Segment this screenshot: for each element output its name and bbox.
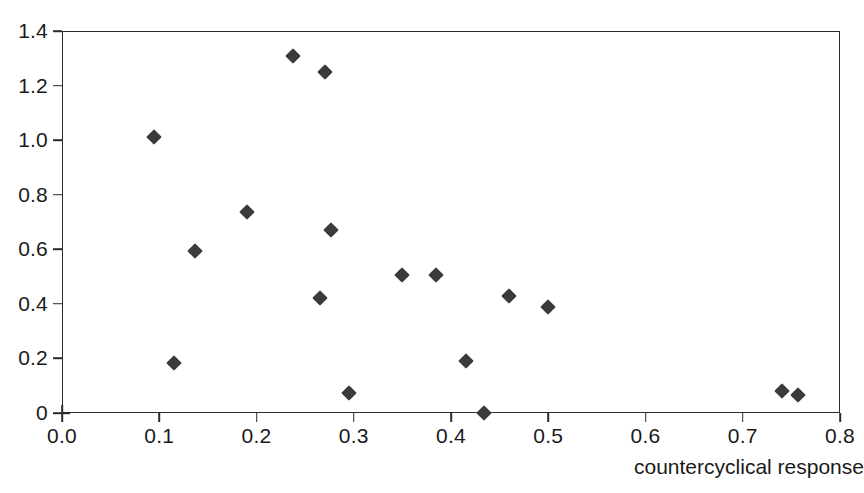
y-axis-tick xyxy=(53,194,62,196)
x-axis-tick-label: 0.1 xyxy=(144,424,174,448)
data-point xyxy=(187,243,203,259)
data-point xyxy=(429,267,445,283)
y-axis-tick-label: 0.8 xyxy=(18,183,48,207)
data-point xyxy=(476,405,492,421)
data-point xyxy=(239,205,255,221)
data-point xyxy=(317,64,333,80)
x-axis-tick-label: 0.5 xyxy=(533,424,563,448)
x-axis-tick-label: 0.0 xyxy=(47,424,77,448)
x-axis-tick-label: 0.7 xyxy=(728,424,758,448)
x-axis-tick-label: 0.3 xyxy=(339,424,369,448)
x-axis-tick xyxy=(645,413,647,422)
y-axis-tick xyxy=(53,85,62,87)
x-axis-tick xyxy=(547,413,549,422)
plot-area xyxy=(62,31,840,413)
data-point xyxy=(395,267,411,283)
x-axis-tick xyxy=(742,413,744,422)
y-axis-tick xyxy=(53,30,62,32)
x-axis-tick xyxy=(256,413,258,422)
data-point xyxy=(147,130,163,146)
y-axis-tick xyxy=(53,303,62,305)
x-axis-tick-label: 0.2 xyxy=(242,424,272,448)
x-axis-tick xyxy=(353,413,355,422)
data-point xyxy=(341,386,357,402)
y-axis-tick xyxy=(53,248,62,250)
data-point xyxy=(458,353,474,369)
y-axis-tick-label: 0.2 xyxy=(18,346,48,370)
data-point xyxy=(166,355,182,371)
data-point xyxy=(774,383,790,399)
x-axis-tick xyxy=(158,413,160,422)
data-point xyxy=(540,299,556,315)
y-axis-tick-label: 0.4 xyxy=(18,292,48,316)
x-axis-tick-label: 0.8 xyxy=(825,424,855,448)
y-axis-tick-label: 1.0 xyxy=(18,128,48,152)
data-point xyxy=(312,291,328,307)
y-axis-tick-label: 0.6 xyxy=(18,237,48,261)
data-point xyxy=(502,288,518,304)
x-axis-tick-label: 0.4 xyxy=(436,424,466,448)
x-axis-label: countercyclical response xyxy=(634,455,864,479)
y-axis-tick xyxy=(53,358,62,360)
y-axis-tick-label: 1.4 xyxy=(18,19,48,43)
y-axis-tick xyxy=(53,139,62,141)
data-point xyxy=(324,222,340,238)
x-axis-tick xyxy=(839,413,841,422)
data-point xyxy=(286,48,302,64)
y-axis-tick xyxy=(53,412,70,414)
data-point xyxy=(790,387,806,403)
y-axis-tick-label: 1.2 xyxy=(18,74,48,98)
x-axis-tick xyxy=(450,413,452,422)
x-axis-tick-label: 0.6 xyxy=(631,424,661,448)
y-axis-tick-label: 0 xyxy=(36,401,48,425)
